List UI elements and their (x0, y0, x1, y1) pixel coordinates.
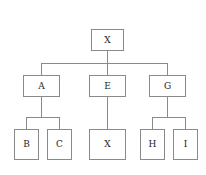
edge-g-bus (152, 117, 186, 118)
edge-a-to-b (26, 117, 27, 129)
edge-root-to-e (107, 63, 108, 75)
edge-a-to-c (59, 117, 60, 129)
edge-root-to-a (41, 63, 42, 75)
node-g[interactable]: G (149, 75, 186, 97)
edge-a-stem (41, 96, 42, 117)
edge-e-to-x (107, 96, 108, 129)
tree-diagram-canvas: X A E G B C X H I (0, 0, 206, 175)
node-e[interactable]: E (89, 75, 126, 97)
node-root-x[interactable]: X (91, 29, 124, 51)
node-h[interactable]: H (140, 129, 165, 160)
node-a[interactable]: A (23, 75, 60, 97)
node-c[interactable]: C (47, 129, 72, 160)
edge-g-to-i (185, 117, 186, 129)
node-i[interactable]: I (173, 129, 198, 160)
edge-root-bus (41, 63, 168, 64)
node-b[interactable]: B (14, 129, 39, 160)
edge-a-bus (26, 117, 60, 118)
node-x-leaf[interactable]: X (89, 129, 126, 160)
edge-root-stem (107, 51, 108, 63)
edge-g-to-h (152, 117, 153, 129)
edge-g-stem (167, 96, 168, 117)
edge-root-to-g (167, 63, 168, 75)
